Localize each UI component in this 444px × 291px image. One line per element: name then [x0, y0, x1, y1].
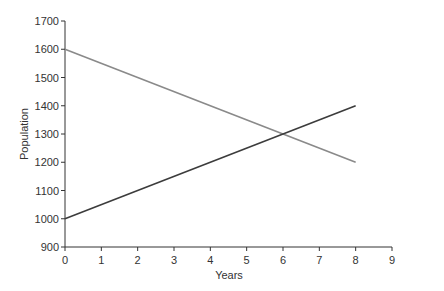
- x-tick-label: 5: [244, 254, 250, 266]
- y-tick-label: 1200: [35, 156, 59, 168]
- y-tick-label: 1400: [35, 100, 59, 112]
- x-tick-label: 1: [98, 254, 104, 266]
- y-tick-label: 1300: [35, 128, 59, 140]
- y-tick-label: 900: [41, 241, 59, 253]
- data-series-line: [65, 49, 356, 162]
- line-chart: 9001000110012001300140015001600170001234…: [0, 0, 444, 291]
- x-tick-label: 6: [280, 254, 286, 266]
- x-tick-label: 4: [207, 254, 213, 266]
- x-tick-label: 8: [353, 254, 359, 266]
- y-tick-label: 1600: [35, 43, 59, 55]
- y-tick-label: 1100: [35, 185, 59, 197]
- plot-area: 9001000110012001300140015001600170001234…: [35, 15, 396, 266]
- y-tick-label: 1000: [35, 213, 59, 225]
- y-tick-label: 1500: [35, 72, 59, 84]
- x-tick-label: 9: [389, 254, 395, 266]
- x-tick-label: 2: [135, 254, 141, 266]
- x-axis-title: Years: [215, 269, 243, 281]
- y-tick-label: 1700: [35, 15, 59, 27]
- data-series-line: [65, 106, 356, 219]
- x-tick-label: 3: [171, 254, 177, 266]
- x-tick-label: 0: [62, 254, 68, 266]
- x-tick-label: 7: [316, 254, 322, 266]
- y-axis-title: Population: [18, 108, 30, 160]
